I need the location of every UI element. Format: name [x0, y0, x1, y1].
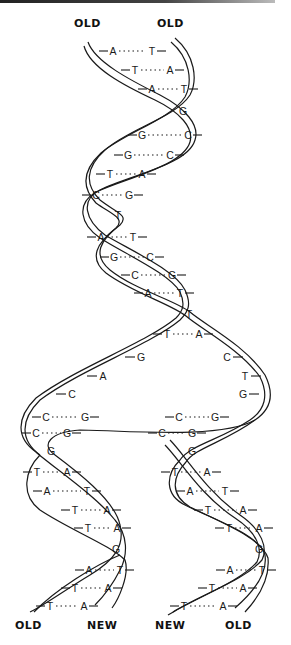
- right-daughter-base-g: G: [255, 543, 263, 555]
- fork-right-unpaired-base: T: [242, 370, 249, 382]
- parent-base-a: A: [195, 328, 202, 340]
- parent-base-c: C: [131, 269, 139, 281]
- left-daughter-strands: [27, 420, 255, 612]
- left-daughter-base-a: A: [43, 485, 50, 497]
- fork-right-base-c: C: [175, 411, 183, 423]
- left-daughter-base-a: A: [85, 564, 92, 576]
- parent-base-g: G: [125, 189, 133, 201]
- parent-base-c: C: [146, 251, 154, 263]
- parent-base-a: A: [144, 287, 151, 299]
- right-daughter-base-a: A: [255, 522, 262, 534]
- parent-base-a: A: [166, 64, 173, 76]
- parent-base-a: A: [148, 83, 155, 95]
- parent-base-t: T: [115, 209, 122, 221]
- fork-left-unpaired-base: A: [99, 370, 106, 382]
- left-daughter-base-t: T: [117, 564, 124, 576]
- left-daughter-base-t: T: [84, 485, 91, 497]
- right-daughter-base-a: A: [186, 485, 193, 497]
- left-daughter-base-t: T: [72, 582, 79, 594]
- fork-right-base-g: G: [211, 411, 219, 423]
- parent-base-c: C: [92, 189, 100, 201]
- left-daughter-base-a: A: [80, 600, 87, 612]
- parent-base-t: T: [107, 168, 114, 180]
- parent-base-g: G: [168, 269, 176, 281]
- parent-base-t: T: [181, 83, 188, 95]
- right-daughter-base-a: A: [239, 504, 246, 516]
- fork-left-base-c: C: [42, 411, 50, 423]
- right-daughter-strands: [165, 420, 268, 615]
- parent-base-t: T: [177, 287, 184, 299]
- fork-left-unpaired-base: C: [68, 388, 76, 400]
- left-daughter-base-t: T: [34, 466, 41, 478]
- left-daughter-base-a: A: [103, 504, 110, 516]
- parent-strand-b: [86, 38, 270, 420]
- right-daughter-base-t: T: [259, 564, 266, 576]
- right-daughter-base-a: A: [226, 564, 233, 576]
- fork-right-unpaired-base: C: [223, 351, 231, 363]
- parent-base-g: G: [138, 129, 146, 141]
- parent-base-g: G: [110, 251, 118, 263]
- parent-base-t: T: [186, 308, 193, 320]
- fork-right-base-g: G: [188, 427, 196, 439]
- parent-base-a: A: [97, 231, 104, 243]
- left-daughter-base-t: T: [85, 522, 92, 534]
- parent-strand-a: [21, 42, 196, 455]
- right-daughter-base-t: T: [181, 600, 188, 612]
- base-pairs-layer: ATTAATGGCGCTACGTATGCCGATTTAGTAATTATAGATT…: [22, 45, 276, 612]
- fork-left-base-g: G: [81, 411, 89, 423]
- parent-base-g: G: [124, 149, 132, 161]
- parent-base-t: T: [149, 45, 156, 57]
- right-daughter-base-a: A: [219, 600, 226, 612]
- left-daughter-base-a: A: [63, 466, 70, 478]
- parent-base-c: C: [184, 129, 192, 141]
- parent-base-a: A: [109, 45, 116, 57]
- left-daughter-base-t: T: [47, 600, 54, 612]
- fork-right-base-c: C: [158, 427, 166, 439]
- parent-base-t: T: [132, 64, 139, 76]
- parent-base-t: T: [164, 328, 171, 340]
- left-daughter-base-g: G: [47, 445, 55, 457]
- left-daughter-base-a: A: [113, 522, 120, 534]
- right-daughter-base-t: T: [226, 522, 233, 534]
- parent-base-t: T: [130, 231, 137, 243]
- right-daughter-base-t: T: [172, 466, 179, 478]
- fork-left-base-g: G: [63, 427, 71, 439]
- right-daughter-base-t: T: [222, 485, 229, 497]
- left-daughter-base-t: T: [72, 504, 79, 516]
- dna-replication-diagram: ATTAATGGCGCTACGTATGCCGATTTAGTAATTATAGATT…: [0, 0, 291, 645]
- right-daughter-base-a: A: [203, 466, 210, 478]
- parent-base-a: A: [138, 168, 145, 180]
- parent-base-g: G: [179, 105, 187, 117]
- right-daughter-base-g: G: [188, 445, 196, 457]
- fork-right-unpaired-base: G: [239, 388, 247, 400]
- fork-left-base-c: C: [32, 427, 40, 439]
- right-daughter-base-t: T: [209, 582, 216, 594]
- right-daughter-base-a: A: [239, 582, 246, 594]
- left-daughter-base-a: A: [104, 582, 111, 594]
- fork-left-unpaired-base: G: [137, 351, 145, 363]
- right-daughter-base-t: T: [205, 504, 212, 516]
- parent-base-c: C: [166, 149, 174, 161]
- left-daughter-base-g: G: [112, 543, 120, 555]
